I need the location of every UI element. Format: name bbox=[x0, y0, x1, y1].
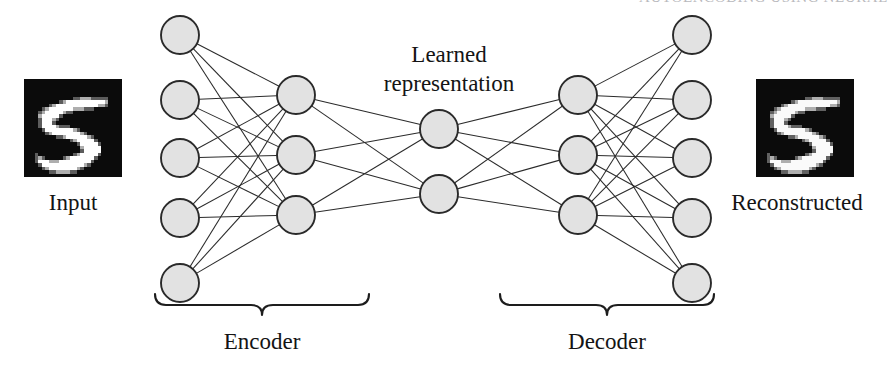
network-node-output-layer-2 bbox=[673, 81, 711, 119]
reconstructed-caption: Reconstructed bbox=[700, 190, 894, 216]
network-edge bbox=[199, 96, 277, 99]
network-node-decoder-hidden-1 bbox=[559, 76, 597, 114]
input-digit-canvas bbox=[24, 79, 122, 177]
network-node-output-layer-1 bbox=[673, 16, 711, 54]
network-node-input-layer-2 bbox=[161, 81, 199, 119]
network-edge bbox=[196, 225, 279, 274]
network-edge bbox=[588, 111, 682, 267]
network-node-decoder-hidden-2 bbox=[559, 136, 597, 174]
network-node-encoder-hidden-3 bbox=[277, 196, 315, 234]
network-edge bbox=[314, 99, 420, 124]
reconstructed-digit-image bbox=[756, 79, 854, 177]
network-edge bbox=[457, 160, 559, 189]
learned-representation-line2: representation bbox=[359, 69, 539, 98]
network-node-input-layer-1 bbox=[161, 16, 199, 54]
network-node-bottleneck-1 bbox=[420, 110, 458, 148]
network-edge bbox=[595, 108, 675, 146]
network-edge bbox=[315, 132, 421, 151]
network-node-decoder-hidden-3 bbox=[559, 196, 597, 234]
autoencoder-figure: AUTOENCODING USING NEURAL Input Reconstr… bbox=[0, 0, 894, 368]
reconstructed-digit-canvas bbox=[756, 79, 854, 177]
learned-representation-label: Learned representation bbox=[359, 40, 539, 98]
network-edge bbox=[197, 108, 279, 147]
network-node-encoder-hidden-1 bbox=[277, 76, 315, 114]
network-edge bbox=[314, 160, 420, 189]
network-edge bbox=[315, 197, 420, 212]
network-node-output-layer-5 bbox=[673, 264, 711, 302]
network-edge bbox=[458, 132, 560, 151]
input-caption: Input bbox=[24, 190, 122, 216]
section-braces bbox=[155, 294, 714, 315]
network-edge bbox=[594, 225, 675, 274]
network-node-output-layer-3 bbox=[673, 139, 711, 177]
network-edge bbox=[597, 96, 673, 99]
network-edge bbox=[457, 100, 559, 125]
network-edge bbox=[199, 215, 277, 217]
network-node-bottleneck-2 bbox=[420, 175, 458, 213]
network-node-input-layer-5 bbox=[161, 264, 199, 302]
learned-representation-line1: Learned bbox=[359, 40, 539, 69]
network-edge bbox=[193, 169, 283, 269]
network-node-input-layer-4 bbox=[161, 199, 199, 237]
network-edge bbox=[591, 169, 680, 269]
network-edge bbox=[458, 197, 559, 212]
encoder-label: Encoder bbox=[155, 329, 369, 355]
decoder-label: Decoder bbox=[500, 329, 714, 355]
network-node-encoder-hidden-2 bbox=[277, 136, 315, 174]
network-node-input-layer-3 bbox=[161, 139, 199, 177]
network-edge bbox=[597, 216, 673, 218]
network-edge bbox=[190, 111, 286, 267]
input-digit-image bbox=[24, 79, 122, 177]
